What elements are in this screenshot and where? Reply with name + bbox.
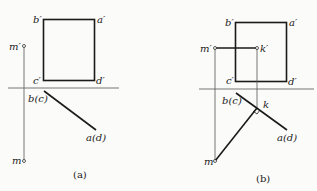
label-b-prime-b: b′ [225, 17, 234, 28]
label-c-prime-b: c′ [226, 75, 235, 86]
plane-top-view-a [44, 91, 96, 130]
projection-diagram: b′ a′ c′ d′ m′ b(c) a(d) m (a) b′ a′ c′ … [0, 0, 317, 191]
label-a-prime-a: a′ [97, 14, 106, 25]
label-bc-b: b(c) [222, 95, 242, 106]
label-m-prime-a: m′ [9, 41, 21, 52]
label-d-prime-a: d′ [96, 75, 105, 86]
plane-front-view-a [44, 20, 95, 81]
label-k-prime-b: k′ [260, 43, 269, 54]
label-m-prime-b: m′ [200, 43, 212, 54]
label-ad-b: a(d) [277, 132, 297, 143]
label-a-prime-b: a′ [289, 17, 298, 28]
caption-a: (a) [73, 169, 87, 180]
panel-b: b′ a′ c′ d′ m′ k′ b(c) k a(d) m (b) [199, 17, 314, 184]
point-m-a [23, 160, 26, 163]
label-ad-a: a(d) [86, 132, 106, 143]
line-mk-top-b [215, 108, 257, 161]
label-m-a: m [12, 155, 21, 166]
label-bc-a: b(c) [28, 93, 48, 104]
point-m-prime-b [214, 47, 217, 50]
label-m-b: m [204, 156, 213, 167]
point-k-prime-b [256, 47, 259, 50]
label-k-b: k [263, 99, 269, 110]
label-b-prime-a: b′ [33, 14, 42, 25]
point-m-prime-a [23, 45, 26, 48]
point-m-b [214, 160, 217, 163]
caption-b: (b) [256, 173, 270, 184]
label-c-prime-a: c′ [33, 75, 42, 86]
panel-a: b′ a′ c′ d′ m′ b(c) a(d) m (a) [8, 14, 119, 180]
label-d-prime-b: d′ [288, 76, 297, 87]
